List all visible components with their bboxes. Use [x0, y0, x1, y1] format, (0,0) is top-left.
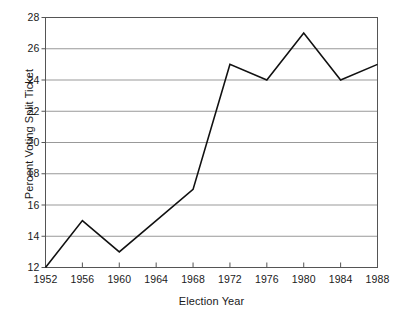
- y-tick-label: 28: [12, 12, 40, 23]
- y-tick-label: 14: [12, 231, 40, 242]
- y-axis-ticks: [42, 18, 46, 268]
- x-tick-label: 1952: [26, 274, 66, 285]
- y-tick-label: 24: [12, 75, 40, 86]
- x-tick-label: 1960: [99, 274, 139, 285]
- x-tick-label: 1988: [358, 274, 394, 285]
- y-tick-label: 12: [12, 262, 40, 273]
- plot-area: [0, 0, 394, 318]
- x-tick-label: 1968: [173, 274, 213, 285]
- x-tick-label: 1964: [136, 274, 176, 285]
- y-tick-label: 18: [12, 168, 40, 179]
- x-tick-label: 1984: [321, 274, 361, 285]
- x-tick-label: 1972: [210, 274, 250, 285]
- x-tick-label: 1980: [284, 274, 324, 285]
- x-axis-title: Election Year: [45, 294, 378, 308]
- y-tick-label: 22: [12, 106, 40, 117]
- y-tick-label: 26: [12, 43, 40, 54]
- y-tick-label: 16: [12, 200, 40, 211]
- y-tick-label: 20: [12, 137, 40, 148]
- x-tick-label: 1976: [247, 274, 287, 285]
- line-chart-figure: Percent Voting Split Ticket 121416182022…: [0, 0, 394, 318]
- x-axis-ticks: [46, 263, 378, 268]
- data-series-line: [46, 33, 378, 267]
- x-tick-label: 1956: [62, 274, 102, 285]
